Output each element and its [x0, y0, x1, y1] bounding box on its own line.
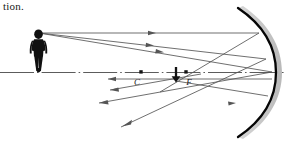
center-of-curvature-label: C: [134, 77, 141, 87]
arrowhead-top-ray: [148, 31, 156, 35]
person-torso: [32, 39, 46, 56]
person-silhouette: [30, 29, 48, 72]
figure-page: tion.: [0, 0, 286, 149]
concave-mirror-ray-diagram: C F: [0, 0, 286, 149]
arrowhead-reflected-down: [122, 120, 132, 127]
arrowhead-lower-return: [108, 77, 116, 81]
center-of-curvature-marker: [139, 70, 142, 73]
arrowhead-mid-ray: [146, 43, 154, 47]
ray-through-center: [39, 33, 266, 59]
optical-point-markers: [139, 70, 187, 73]
arrowhead-reflected-left: [99, 100, 109, 105]
arrowhead-focus-return: [110, 87, 119, 91]
ray-group: [39, 33, 272, 127]
focal-point-marker: [184, 70, 187, 73]
arrowhead-vertex-ray: [155, 49, 164, 54]
arrowhead-low-right-ray: [228, 101, 236, 105]
focal-point-label: F: [185, 77, 192, 87]
inverted-image-arrow: [172, 67, 181, 82]
ray-through-center-reflected: [121, 59, 266, 127]
person-head: [34, 29, 43, 39]
